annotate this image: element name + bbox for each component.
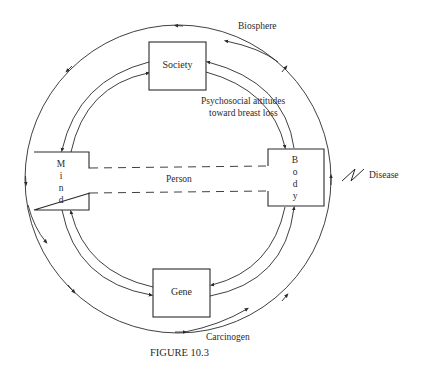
person-dashed-bottom: [90, 191, 267, 193]
carcinogen-label: Carcinogen: [206, 332, 250, 343]
figure-caption: FIGURE 10.3: [150, 347, 209, 358]
body-letter: o: [289, 166, 301, 178]
mind-letter: d: [55, 194, 67, 206]
psychosocial-label-line2: toward breast loss: [209, 108, 278, 119]
body-letter: y: [289, 190, 301, 202]
mind-letter: M: [55, 158, 67, 170]
biosphere-label: Biosphere: [238, 21, 277, 32]
body-letter: B: [289, 154, 301, 166]
psychosocial-label-line1: Psychosocial attitudes: [201, 96, 285, 107]
society-label: Society: [149, 59, 206, 70]
person-dashed-top: [90, 166, 267, 168]
disease-zigzag-icon: [342, 169, 364, 181]
mind-letter: n: [55, 182, 67, 194]
body-letter: d: [289, 178, 301, 190]
person-label: Person: [166, 174, 192, 185]
disease-label: Disease: [369, 170, 399, 181]
gene-label: Gene: [153, 286, 210, 297]
mind-letter: i: [55, 170, 67, 182]
